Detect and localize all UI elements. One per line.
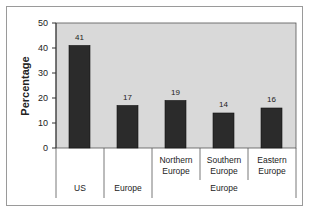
bar-southern-europe — [213, 113, 234, 148]
category-label-northern: Northern — [159, 155, 192, 165]
y-tick-label: 30 — [38, 68, 48, 78]
category-label-europe: Europe — [114, 183, 142, 193]
y-tick-label: 20 — [38, 93, 48, 103]
group-label-europe: Europe — [210, 183, 238, 193]
y-ticks — [52, 23, 56, 148]
value-label: 41 — [75, 33, 84, 42]
y-tick-label: 10 — [38, 118, 48, 128]
bar-us — [69, 46, 90, 149]
y-tick-label: 40 — [38, 43, 48, 53]
category-label-eastern: Eastern — [257, 155, 287, 165]
bar-eastern-europe — [261, 108, 282, 148]
category-label-southern: Southern — [207, 155, 242, 165]
y-tick-label: 50 — [38, 18, 48, 28]
category-label-us: US — [74, 183, 86, 193]
value-label: 19 — [171, 88, 180, 97]
value-label: 16 — [267, 95, 276, 104]
y-tick-label: 0 — [43, 143, 48, 153]
bar-northern-europe — [165, 101, 186, 149]
bar-chart: 0 10 20 30 40 50 Percentage 41 17 19 14 … — [0, 0, 309, 212]
value-label: 14 — [219, 100, 228, 109]
value-label: 17 — [123, 93, 132, 102]
category-label-northern-2: Europe — [162, 166, 190, 176]
bar-europe — [117, 106, 138, 149]
category-label-southern-2: Europe — [210, 166, 238, 176]
category-label-eastern-2: Europe — [258, 166, 286, 176]
y-axis-title: Percentage — [19, 56, 31, 115]
